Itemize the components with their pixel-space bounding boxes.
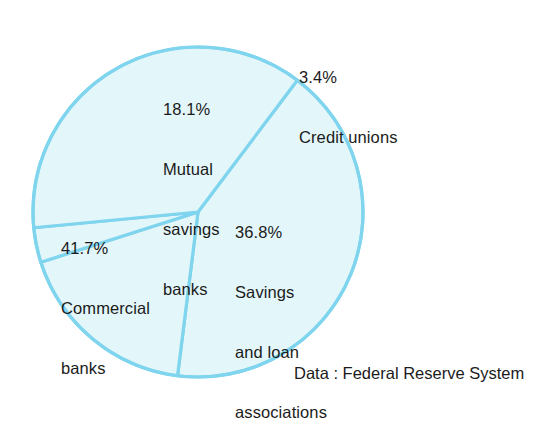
pie-label-mutual-savings-banks-percent: 18.1% [163, 99, 220, 119]
pie-label-mutual-savings-banks-line1: Mutual [163, 159, 220, 179]
pie-label-savings-and-loan-associations-percent: 36.8% [235, 222, 327, 242]
pie-label-savings-and-loan-associations-line3: associations [235, 402, 327, 422]
pie-label-credit-unions: 3.4% Credit unions [299, 27, 398, 187]
pie-label-savings-and-loan-associations-line2: and loan [235, 342, 327, 362]
pie-label-mutual-savings-banks-line3: banks [163, 279, 220, 299]
pie-label-commercial-banks-percent: 41.7% [61, 238, 150, 258]
pie-label-commercial-banks: 41.7% Commercial banks [61, 198, 150, 418]
pie-label-commercial-banks-line2: banks [61, 358, 150, 378]
pie-label-credit-unions-line1: Credit unions [299, 127, 398, 147]
pie-label-mutual-savings-banks-line2: savings [163, 219, 220, 239]
pie-label-mutual-savings-banks: 18.1% Mutual savings banks [163, 59, 220, 339]
pie-label-savings-and-loan-associations: 36.8% Savings and loan associations [235, 182, 327, 422]
pie-label-commercial-banks-line1: Commercial [61, 298, 150, 318]
pie-label-credit-unions-percent: 3.4% [299, 67, 398, 87]
pie-label-savings-and-loan-associations-line1: Savings [235, 282, 327, 302]
source-attribution: Data : Federal Reserve System [294, 363, 524, 383]
